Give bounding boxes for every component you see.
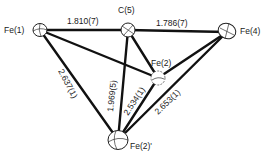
atom-label-fe2-prime: Fe(2)' [130,141,152,151]
atom-label-fe1: Fe(1) [4,25,24,35]
bond-fe4-fe2p [118,32,227,140]
atom-fe2 [151,71,165,85]
atom-label-c5: C(5) [118,5,135,15]
atom-fe2-prime [108,131,128,150]
bond-c5-fe4 [128,30,227,32]
atom-fe1 [33,24,47,37]
atom-label-fe2: Fe(2) [151,58,171,68]
atom-label-fe4: Fe(4) [240,26,260,36]
bond-label-fe1-fe2p: 2.637(1) [56,67,80,100]
bond-label-c5-fe4: 1.786(7) [156,18,188,28]
bond-fe4-fe2 [158,32,227,78]
bond-label-fe1-c5: 1.810(7) [67,16,99,26]
molecular-diagram: Fe(1) C(5) Fe(4) Fe(2) Fe(2)' 1.810(7) 1… [0,0,274,163]
atom-c5 [121,23,135,37]
bond-label-c5-fe2p: 1.969(5) [105,80,118,113]
bond-c5-fe2p [118,30,128,140]
